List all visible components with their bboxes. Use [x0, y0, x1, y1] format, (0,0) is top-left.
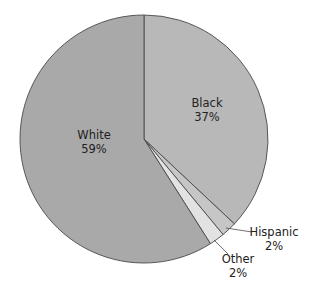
other-label-pct: 2% — [222, 266, 255, 280]
hispanic-label: Hispanic 2% — [250, 225, 299, 253]
other-label: Other 2% — [222, 252, 255, 280]
black-label-name: Black — [191, 96, 222, 110]
hispanic-leader-line — [226, 228, 252, 232]
black-label-pct: 37% — [191, 110, 222, 124]
black-label: Black 37% — [191, 96, 222, 124]
hispanic-label-name: Hispanic — [250, 225, 299, 239]
hispanic-label-pct: 2% — [250, 239, 299, 253]
white-label-pct: 59% — [77, 142, 110, 156]
white-label: White 59% — [77, 128, 110, 156]
white-label-name: White — [77, 128, 110, 142]
other-label-name: Other — [222, 252, 255, 266]
